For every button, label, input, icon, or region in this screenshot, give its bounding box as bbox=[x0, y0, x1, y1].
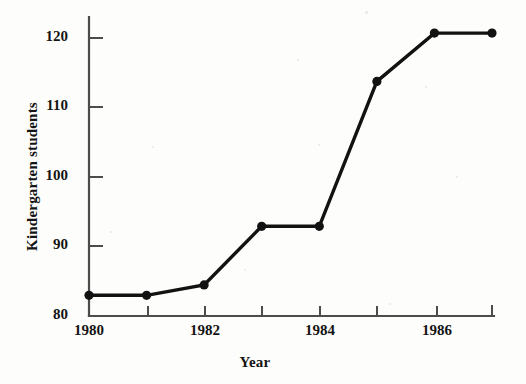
plot-area: 120 110 100 90 80 1980 1982 1984 1986 Ki… bbox=[0, 0, 526, 384]
data-line-kindergarten-students bbox=[89, 33, 492, 295]
x-axis-title: Year bbox=[175, 354, 335, 371]
x-tick-label-1982: 1982 bbox=[175, 322, 235, 339]
data-point-1983 bbox=[257, 222, 266, 231]
x-tick-label-1984: 1984 bbox=[290, 322, 350, 339]
y-axis-ticks bbox=[89, 38, 102, 246]
x-tick-label-1980: 1980 bbox=[59, 322, 119, 339]
data-point-1985 bbox=[372, 77, 381, 86]
data-point-1980 bbox=[84, 291, 93, 300]
chart-figure: 120 110 100 90 80 1980 1982 1984 1986 Ki… bbox=[0, 0, 526, 384]
data-point-1982 bbox=[200, 280, 209, 289]
x-tick-label-1986: 1986 bbox=[407, 322, 467, 339]
data-point-1986 bbox=[430, 28, 439, 37]
x-axis-ticks bbox=[89, 306, 492, 316]
data-point-1984 bbox=[315, 222, 324, 231]
data-point-1981 bbox=[142, 291, 151, 300]
y-tick-label-80: 80 bbox=[22, 306, 68, 323]
y-axis-title: Kindergarten students bbox=[24, 82, 41, 272]
data-markers bbox=[84, 28, 496, 299]
data-point-1987 bbox=[487, 28, 496, 37]
y-tick-label-120: 120 bbox=[22, 28, 68, 45]
